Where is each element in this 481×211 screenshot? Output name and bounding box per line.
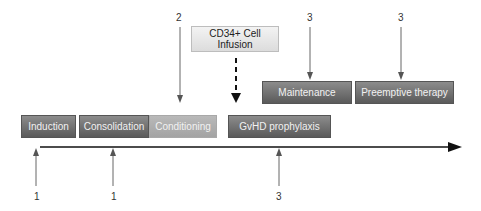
maintenance-box: Maintenance bbox=[262, 81, 352, 104]
maintenance-label: Maintenance bbox=[278, 87, 335, 98]
gvhd-prophylaxis-box: GvHD prophylaxis bbox=[228, 115, 331, 138]
preemptive-number: 3 bbox=[398, 12, 404, 23]
consolidation-label: Consolidation bbox=[84, 121, 145, 132]
cd34-label-line1: CD34+ Cell bbox=[209, 28, 260, 39]
maintenance-number: 3 bbox=[307, 12, 313, 23]
consolidation-box: Consolidation bbox=[79, 115, 149, 138]
conditioning-box: Conditioning bbox=[149, 115, 217, 138]
induction-label: Induction bbox=[28, 121, 69, 132]
cd34-infusion-box: CD34+ Cell Infusion bbox=[191, 26, 279, 52]
conditioning-number: 2 bbox=[176, 12, 182, 23]
preemptive-label: Preemptive therapy bbox=[361, 87, 448, 98]
preemptive-therapy-box: Preemptive therapy bbox=[355, 81, 454, 104]
gvhd-number: 3 bbox=[276, 191, 282, 202]
consolidation-number: 1 bbox=[111, 191, 117, 202]
induction-number: 1 bbox=[34, 191, 40, 202]
conditioning-label: Conditioning bbox=[155, 121, 211, 132]
gvhd-label: GvHD prophylaxis bbox=[239, 121, 320, 132]
cd34-label-line2: Infusion bbox=[217, 39, 252, 50]
induction-box: Induction bbox=[21, 115, 76, 138]
